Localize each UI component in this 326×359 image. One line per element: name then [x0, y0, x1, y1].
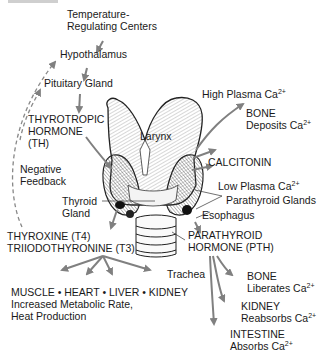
label-thyrotropic-hormone: THYROTROPIC HORMONE (TH) — [28, 113, 104, 149]
superscript: 2+ — [307, 282, 315, 289]
superscript: 2+ — [285, 340, 293, 347]
trachea-shape — [136, 215, 176, 257]
label-line: Negative — [20, 163, 66, 175]
label-line: BONE — [247, 270, 315, 282]
label-line: Feedback — [20, 175, 66, 187]
label-text: Liberates Ca — [247, 282, 307, 294]
label-intestine-absorbs-calcium: INTESTINE Absorbs Ca2+ — [230, 328, 293, 352]
label-line: HORMONE — [28, 125, 104, 137]
superscript: 2+ — [292, 180, 300, 187]
label-line: Heat Production — [11, 310, 133, 322]
superscript: 2+ — [278, 88, 286, 95]
label-text: High Plasma Ca — [202, 88, 278, 100]
label-text: Absorbs Ca — [230, 340, 285, 352]
label-kidney-reabsorbs-calcium: KIDNEY Reabsorbs Ca2+ — [241, 300, 316, 324]
label-parathyroid-hormone: PARATHYROID HORMONE (PTH) — [188, 229, 274, 253]
label-high-plasma-calcium: High Plasma Ca2+ — [202, 88, 286, 100]
label-text: Deposits Ca — [246, 119, 303, 131]
label-line: Increased Metabolic Rate, — [11, 298, 133, 310]
label-temperature-regulating-centers: Temperature- Regulating Centers — [67, 8, 157, 32]
label-bone-deposits-calcium: BONE Deposits Ca2+ — [246, 107, 311, 131]
label-line: Regulating Centers — [67, 20, 157, 32]
label-thyroxine-t4: THYROXINE (T4) — [7, 230, 90, 242]
label-target-organs: MUSCLE • HEART • LIVER • KIDNEY — [11, 286, 188, 298]
label-text: Reabsorbs Ca — [241, 312, 308, 324]
label-line: Absorbs Ca2+ — [230, 340, 293, 352]
superscript: 2+ — [303, 119, 311, 126]
label-line: BONE — [246, 107, 311, 119]
label-thyroid-gland: Thyroid Gland — [62, 195, 97, 219]
label-line: Temperature- — [67, 8, 157, 20]
label-metabolic-effect: Increased Metabolic Rate, Heat Productio… — [11, 298, 133, 322]
label-hypothalamus: Hypothalamus — [60, 48, 127, 60]
label-low-plasma-calcium: Low Plasma Ca2+ — [218, 180, 300, 192]
label-line: PARATHYROID — [188, 229, 274, 241]
label-bone-liberates-calcium: BONE Liberates Ca2+ — [247, 270, 315, 294]
label-line: Liberates Ca2+ — [247, 282, 315, 294]
label-line: INTESTINE — [230, 328, 293, 340]
label-line: Gland — [62, 207, 97, 219]
label-line: (TH) — [28, 137, 104, 149]
label-calcitonin: CALCITONIN — [208, 156, 271, 168]
label-negative-feedback: Negative Feedback — [20, 163, 66, 187]
label-line: THYROTROPIC — [28, 113, 104, 125]
label-larynx: Larynx — [140, 130, 172, 142]
label-triiodothyronine-t3: TRIIODOTHYRONINE (T3) — [7, 242, 135, 254]
label-line: Deposits Ca2+ — [246, 119, 311, 131]
label-line: Reabsorbs Ca2+ — [241, 312, 316, 324]
label-trachea: Trachea — [167, 268, 205, 280]
label-text: Low Plasma Ca — [218, 180, 292, 192]
label-esophagus: Esophagus — [202, 209, 255, 221]
label-line: Thyroid — [62, 195, 97, 207]
label-line: HORMONE (PTH) — [188, 241, 274, 253]
label-parathyroid-glands: Parathyroid Glands — [226, 194, 316, 206]
label-line: KIDNEY — [241, 300, 316, 312]
superscript: 2+ — [308, 312, 316, 319]
label-pituitary-gland: Pituitary Gland — [44, 77, 113, 89]
